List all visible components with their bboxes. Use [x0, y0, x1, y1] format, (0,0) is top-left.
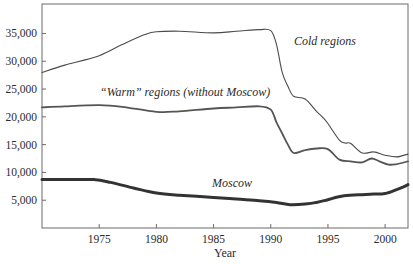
- y-tick-label: 10,000: [5, 166, 37, 179]
- x-axis-title: Year: [214, 246, 236, 260]
- x-tick-label: 1975: [88, 233, 111, 245]
- x-tick-label: 1990: [259, 233, 282, 245]
- series-label-moscow: Moscow: [211, 176, 252, 190]
- y-tick-label: 15,000: [5, 139, 37, 152]
- y-tick-label: 25,000: [5, 83, 37, 96]
- series-line-warm-regions-without-moscow: [42, 105, 408, 165]
- x-tick-label: 1980: [145, 233, 168, 245]
- series-label-warm-regions-without-moscow: “Warm” regions (without Moscow): [100, 85, 270, 99]
- y-tick-label: 20,000: [5, 111, 37, 124]
- y-tick-label: 35,000: [5, 27, 37, 40]
- y-tick-label: 5,000: [11, 194, 37, 207]
- x-tick-label: 1985: [202, 233, 225, 245]
- y-tick-label: 30,000: [5, 55, 37, 68]
- y-axis: 5,00010,00015,00020,00025,00030,00035,00…: [5, 27, 46, 207]
- line-chart: 5,00010,00015,00020,00025,00030,00035,00…: [0, 0, 413, 264]
- x-tick-label: 2000: [374, 233, 397, 245]
- x-axis: 197519801985199019952000: [88, 224, 397, 245]
- series-label-cold-regions: Cold regions: [294, 34, 356, 48]
- x-tick-label: 1995: [316, 233, 339, 245]
